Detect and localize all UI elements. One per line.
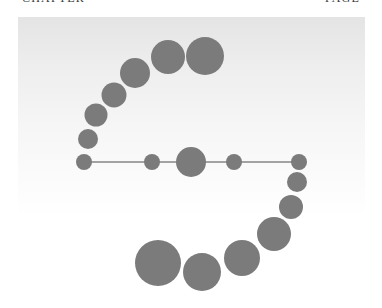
circle-arc-top-1 [186,37,224,75]
circle-arc-top-4 [102,83,127,108]
circle-arc-bottom-3 [257,217,291,251]
circle-arc-top-3 [120,58,150,88]
circle-arc-top-5 [85,104,108,127]
spiral-circle-diagram [0,0,382,308]
circle-arc-top-6 [78,129,98,149]
circle-line-node-4 [226,154,242,170]
circle-arc-bottom-4 [224,240,260,276]
circle-line-node-2 [144,154,160,170]
circle-line-node-1 [76,154,92,170]
circle-arc-bottom-2 [279,195,303,219]
circle-arc-bottom-5 [183,253,221,291]
circle-line-node-5 [291,154,307,170]
circle-group [76,37,307,291]
circle-arc-bottom-1 [287,172,307,192]
circle-arc-top-2 [151,40,185,74]
circle-arc-bottom-6 [135,240,181,286]
circle-line-node-center [176,147,206,177]
